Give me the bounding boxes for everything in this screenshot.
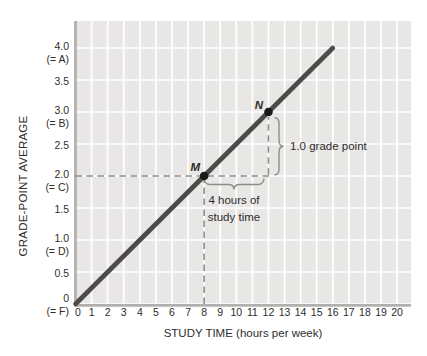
x-tick-label: 2 <box>105 306 111 318</box>
rise-annotation-label: 1.0 grade point <box>290 140 368 152</box>
x-tick-label: 10 <box>230 306 242 318</box>
x-tick-label: 12 <box>263 306 275 318</box>
point-dot-N <box>264 108 273 117</box>
x-tick-label: 18 <box>359 306 371 318</box>
y-tick-label: 3.5 <box>54 75 69 87</box>
x-tick-label: 11 <box>247 306 258 318</box>
y-tick-label: 4.0 <box>54 40 69 52</box>
x-tick-label: 13 <box>279 306 291 318</box>
x-tick-label: 6 <box>169 306 175 318</box>
x-tick-label: 0 <box>75 306 81 318</box>
x-tick-label: 15 <box>311 306 323 318</box>
y-axis-title: GRADE-POINT AVERAGE <box>17 115 29 256</box>
x-tick-label: 20 <box>391 306 403 318</box>
run-annotation-label-line1: 4 hours of <box>208 194 260 206</box>
point-label-n: N <box>255 99 264 111</box>
x-tick-label: 5 <box>153 306 159 318</box>
y-tick-sublabel: (= D) <box>45 245 69 257</box>
y-tick-label: 3.0 <box>54 104 69 116</box>
y-tick-label: 1.5 <box>54 203 69 215</box>
y-tick-sublabel: (= C) <box>45 181 69 193</box>
x-tick-label: 17 <box>343 306 355 318</box>
y-tick-label: 0 <box>63 292 69 304</box>
y-tick-sublabel: (= F) <box>47 305 69 317</box>
y-tick-sublabel: (= B) <box>46 117 69 129</box>
x-tick-label: 3 <box>121 306 127 318</box>
y-tick-label: 2.5 <box>54 139 69 151</box>
run-annotation-label-line2: study time <box>208 211 260 223</box>
x-tick-label: 1 <box>89 306 95 318</box>
x-tick-label: 8 <box>201 306 207 318</box>
y-tick-label: 0.5 <box>54 267 69 279</box>
point-label-m: M <box>190 161 200 173</box>
chart-canvas: 012345678910111213141516171819204.0(= A)… <box>0 0 427 356</box>
y-tick-label: 2.0 <box>54 168 69 180</box>
x-tick-label: 19 <box>375 306 387 318</box>
x-tick-label: 16 <box>327 306 339 318</box>
x-axis-title: STUDY TIME (hours per week) <box>164 327 323 339</box>
point-dot-M <box>200 172 209 181</box>
gpa-study-time-figure: 012345678910111213141516171819204.0(= A)… <box>0 0 427 356</box>
x-tick-label: 4 <box>137 306 143 318</box>
y-tick-label: 1.0 <box>54 232 69 244</box>
x-tick-label: 9 <box>217 306 223 318</box>
x-tick-label: 7 <box>185 306 191 318</box>
x-tick-label: 14 <box>295 306 307 318</box>
y-tick-sublabel: (= A) <box>47 53 69 65</box>
plot-area <box>76 21 412 304</box>
plot-background-layer <box>76 21 412 304</box>
